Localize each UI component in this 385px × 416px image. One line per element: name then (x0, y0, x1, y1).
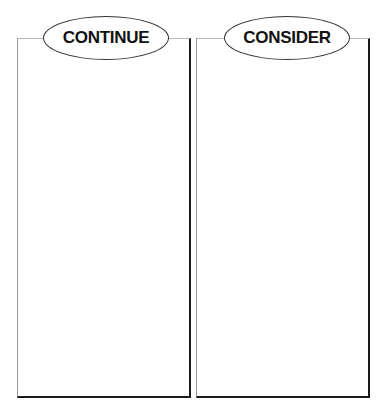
consider-label: CONSIDER (224, 16, 350, 60)
continue-label: CONTINUE (43, 16, 169, 60)
consider-panel (196, 38, 370, 398)
continue-panel (17, 38, 191, 398)
